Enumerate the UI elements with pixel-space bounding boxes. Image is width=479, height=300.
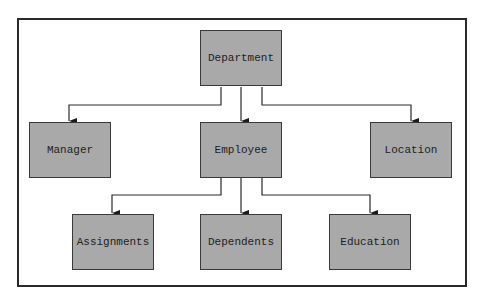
node-location: Location [370, 122, 452, 178]
node-assignments: Assignments [72, 214, 154, 270]
node-label: Location [385, 144, 438, 156]
node-employee: Employee [200, 122, 282, 178]
node-label: Assignments [77, 236, 150, 248]
node-label: Employee [215, 144, 268, 156]
node-education: Education [329, 214, 411, 270]
node-label: Manager [47, 144, 93, 156]
node-label: Department [208, 52, 274, 64]
node-label: Education [340, 236, 399, 248]
node-manager: Manager [29, 122, 111, 178]
node-dependents: Dependents [200, 214, 282, 270]
node-department: Department [200, 30, 282, 86]
node-label: Dependents [208, 236, 274, 248]
